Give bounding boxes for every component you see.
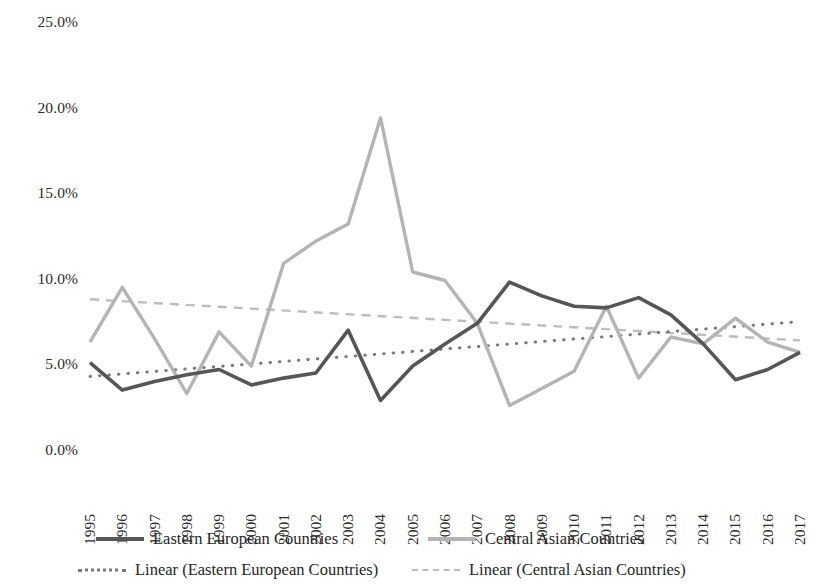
legend-label-eastern-european: Eastern European Countries bbox=[153, 530, 338, 548]
x-axis-tick-labels: 1995199619971998199920002001200220032004… bbox=[0, 452, 816, 522]
y-tick-label: 20.0% bbox=[0, 100, 78, 116]
y-tick-label: 10.0% bbox=[0, 271, 78, 287]
y-tick-label: 5.0% bbox=[0, 356, 78, 372]
y-axis-tick-labels: 0.0%5.0%10.0%15.0%20.0%25.0% bbox=[0, 0, 78, 470]
legend-row-series: Eastern European Countries Central Asian… bbox=[0, 524, 816, 554]
dashed-line-swatch-icon bbox=[412, 563, 460, 577]
y-tick-label: 15.0% bbox=[0, 185, 78, 201]
legend-item-eastern-european[interactable]: Eastern European Countries bbox=[96, 524, 338, 554]
trendline-eastern-european bbox=[90, 322, 800, 377]
series-line-central-asian bbox=[90, 118, 800, 406]
y-tick-label: 25.0% bbox=[0, 14, 78, 30]
legend-label-linear-eastern-european: Linear (Eastern European Countries) bbox=[135, 561, 378, 579]
solid-line-dark-swatch-icon bbox=[96, 532, 144, 546]
chart-legend: Eastern European Countries Central Asian… bbox=[0, 524, 816, 587]
legend-label-linear-central-asian: Linear (Central Asian Countries) bbox=[469, 561, 686, 579]
dotted-line-swatch-icon bbox=[78, 563, 126, 577]
legend-item-linear-eastern-european[interactable]: Linear (Eastern European Countries) bbox=[78, 555, 378, 585]
line-chart: 0.0%5.0%10.0%15.0%20.0%25.0% 19951996199… bbox=[0, 0, 816, 587]
legend-item-linear-central-asian[interactable]: Linear (Central Asian Countries) bbox=[412, 555, 686, 585]
solid-line-light-swatch-icon bbox=[428, 532, 476, 546]
legend-label-central-asian: Central Asian Countries bbox=[485, 530, 644, 548]
legend-row-trendlines: Linear (Eastern European Countries) Line… bbox=[0, 555, 816, 585]
legend-item-central-asian[interactable]: Central Asian Countries bbox=[428, 524, 644, 554]
